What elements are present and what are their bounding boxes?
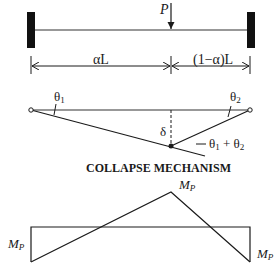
left-fixed-support	[27, 12, 35, 48]
theta2-leader	[228, 106, 231, 117]
collapse-mechanism-title: COLLAPSE MECHANISM	[86, 162, 231, 174]
left-moment-label: MP	[8, 237, 24, 252]
deflection-label: δ	[160, 125, 166, 138]
middle-plastic-hinge	[169, 144, 174, 149]
right-fixed-support	[247, 12, 255, 48]
right-span-label: (1−α)L	[193, 53, 233, 67]
moment-diagram	[31, 192, 250, 262]
left-rotated-segment	[31, 110, 205, 156]
right-moment-label: MP	[257, 247, 273, 262]
peak-moment-label: MP	[179, 178, 195, 193]
left-span-label: αL	[93, 53, 109, 67]
fixed-beam	[27, 3, 255, 48]
theta2-label: θ2	[230, 90, 241, 105]
left-plastic-hinge	[29, 108, 33, 112]
theta1-label: θ1	[54, 90, 65, 105]
rotation-sum-label: θ1 + θ2	[209, 137, 244, 152]
load-label: P	[160, 3, 169, 17]
right-plastic-hinge	[248, 108, 252, 112]
